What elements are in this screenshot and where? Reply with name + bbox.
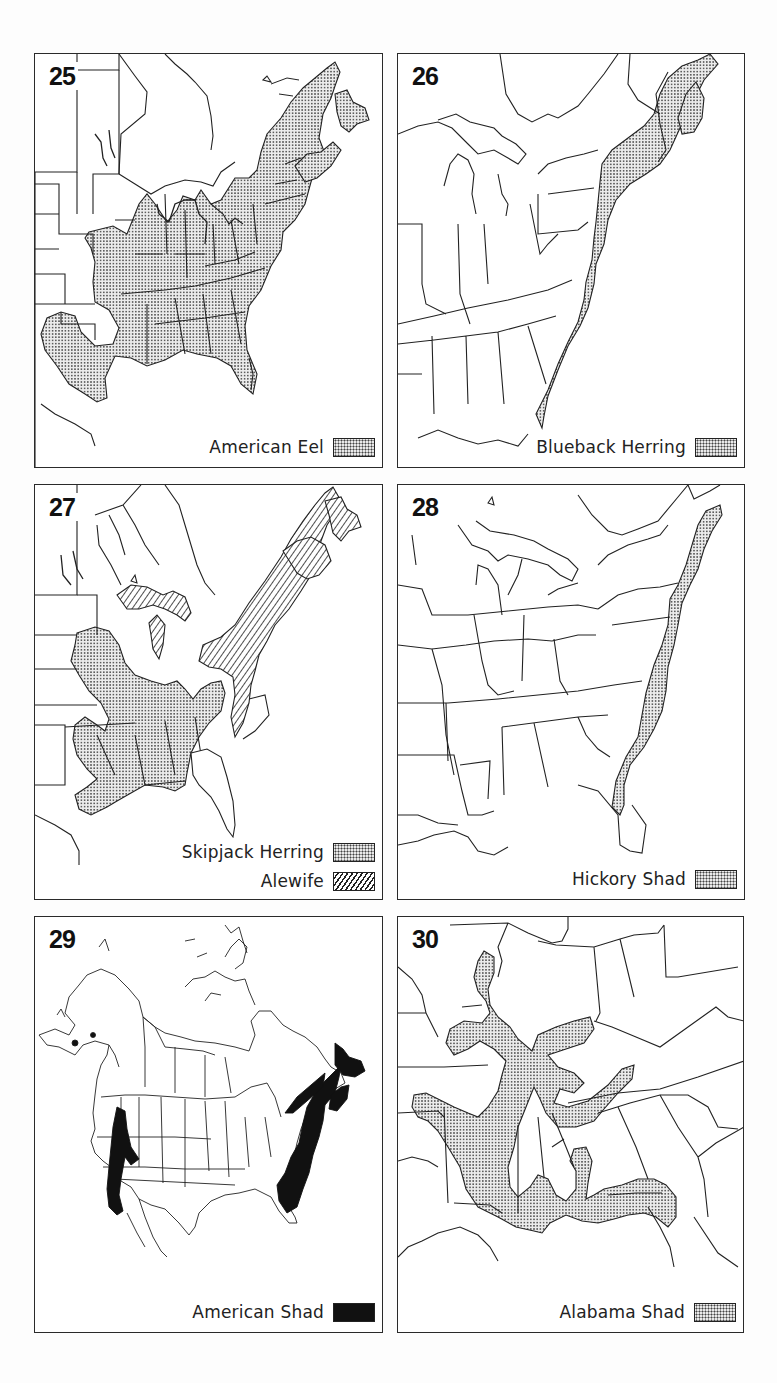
- legend-label: American Shad: [192, 1302, 324, 1322]
- map-29-american-shad: 29 American Shad: [34, 916, 383, 1333]
- alewife-range-michigan: [149, 615, 165, 659]
- solid-swatch-icon: [333, 1303, 375, 1322]
- legend-label: Alabama Shad: [559, 1302, 685, 1322]
- legend-label: Skipjack Herring: [182, 842, 324, 862]
- map-number: 26: [412, 62, 441, 90]
- hickory-shad-range: [612, 505, 722, 815]
- stipple-swatch-icon: [695, 438, 737, 457]
- legend: Hickory Shad: [566, 869, 737, 889]
- map-number: 29: [49, 925, 78, 953]
- map-27-skipjack-herring-alewife: 27 Skipjack Herring Alewife: [34, 484, 383, 900]
- legend: American Shad: [186, 1302, 375, 1322]
- map-29-graphic: [35, 917, 383, 1333]
- alabama-shad-range: [412, 951, 676, 1233]
- american-shad-range-pacific: [107, 1107, 139, 1215]
- legend-label: Blueback Herring: [536, 437, 686, 457]
- legend: Skipjack Herring: [176, 842, 375, 862]
- hatch-swatch-icon: [333, 872, 375, 891]
- newfoundland: [335, 90, 369, 132]
- legend: Alewife: [255, 871, 375, 891]
- alewife-range-newfoundland: [325, 497, 361, 541]
- map-number: 25: [49, 62, 78, 90]
- legend: Blueback Herring: [530, 437, 737, 457]
- map-26-graphic: [398, 54, 745, 468]
- legend: American Eel: [203, 437, 375, 457]
- stipple-swatch-icon: [695, 870, 737, 889]
- alewife-range-lakes: [117, 585, 191, 621]
- map-26-blueback-herring: 26 Blueback Herring: [397, 53, 745, 468]
- map-number: 30: [412, 925, 441, 953]
- map-25-graphic: [35, 54, 383, 468]
- legend-label: Hickory Shad: [572, 869, 686, 889]
- stipple-swatch-icon: [333, 843, 375, 862]
- map-number: 27: [49, 493, 78, 521]
- map-number: 28: [412, 493, 441, 521]
- stipple-swatch-icon: [333, 438, 375, 457]
- legend-label: Alewife: [261, 871, 324, 891]
- stipple-swatch-icon: [694, 1303, 736, 1322]
- legend-label: American Eel: [209, 437, 324, 457]
- map-30-alabama-shad: 30 Alabama Shad: [397, 916, 744, 1333]
- map-28-hickory-shad: 28 Hickory Shad: [397, 484, 745, 900]
- legend: Alabama Shad: [553, 1302, 736, 1322]
- map-30-graphic: [398, 917, 744, 1333]
- american-eel-range: [41, 62, 340, 402]
- map-27-graphic: [35, 485, 383, 900]
- map-25-american-eel: 25 American Eel: [34, 53, 383, 468]
- map-28-graphic: [398, 485, 745, 900]
